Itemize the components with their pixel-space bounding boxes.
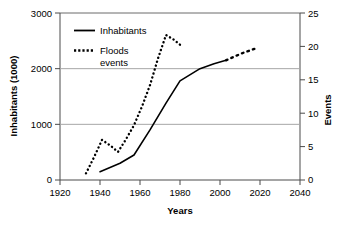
chart-svg: 0 1000 2000 3000 0 5 10 15 20 25	[0, 0, 340, 225]
y2-tick-label-20: 20	[308, 41, 319, 52]
x-tick-label-1920: 1920	[49, 187, 70, 198]
chart-figure: 0 1000 2000 3000 0 5 10 15 20 25	[0, 0, 340, 225]
y-tick-label-0: 0	[47, 174, 52, 185]
legend-label-events: events	[100, 57, 128, 68]
x-tick-label-2000: 2000	[209, 187, 230, 198]
x-axis-title: Years	[167, 205, 192, 216]
x-tick-label-1960: 1960	[129, 187, 150, 198]
y-tick-label-1000: 1000	[31, 119, 52, 130]
x-tick-label-2040: 2040	[289, 187, 310, 198]
x-tick-label-1940: 1940	[89, 187, 110, 198]
x-tick-label-2020: 2020	[249, 187, 270, 198]
legend-label-floods: Floods	[100, 45, 129, 56]
y2-tick-label-10: 10	[308, 108, 319, 119]
legend-label-inhabitants: Inhabitants	[100, 25, 147, 36]
y2-axis-title: Events	[322, 94, 333, 125]
y2-tick-label-0: 0	[308, 174, 313, 185]
x-tick-label-1980: 1980	[169, 187, 190, 198]
y2-tick-label-5: 5	[308, 141, 313, 152]
y-tick-label-2000: 2000	[31, 63, 52, 74]
y2-tick-label-15: 15	[308, 74, 319, 85]
y-tick-label-3000: 3000	[31, 8, 52, 19]
y2-tick-label-25: 25	[308, 8, 319, 19]
y-axis-title: Inhabitants (1000)	[8, 56, 19, 137]
